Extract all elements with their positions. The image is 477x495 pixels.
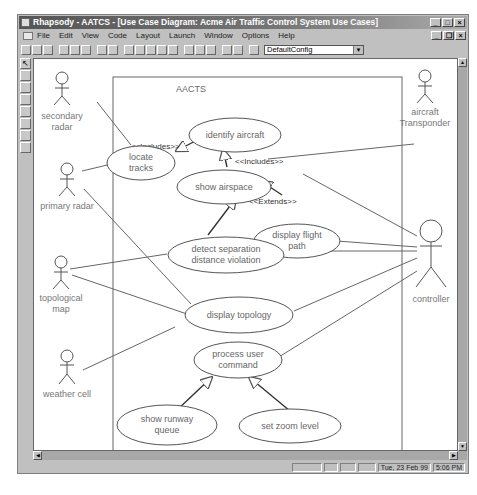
zoom-undo-icon[interactable] — [168, 45, 178, 55]
maximize-button[interactable]: □ — [442, 18, 453, 27]
status-panel — [292, 463, 322, 472]
use-case-label: display topology — [207, 310, 272, 320]
app-icon[interactable] — [21, 18, 30, 27]
association-tool-icon[interactable] — [20, 118, 31, 129]
use-case-label: display flight — [272, 230, 322, 240]
status-panel — [358, 463, 376, 472]
actor-label: secondary — [41, 111, 83, 121]
use-case-label: command — [218, 360, 258, 370]
status-panel — [324, 463, 338, 472]
horizontal-scrollbar[interactable]: ◀ ▶ — [33, 451, 458, 460]
status-date: Tue, 23 Feb 99 — [378, 463, 431, 472]
menu-file[interactable]: File — [37, 30, 50, 42]
disabled-tool-icon[interactable] — [222, 45, 232, 55]
disabled-tool-icon[interactable] — [233, 45, 243, 55]
close-button[interactable]: × — [454, 18, 465, 27]
rhapsody-window: Rhapsody - AATCS - [Use Case Diagram: Ac… — [17, 14, 469, 474]
drawing-palette: ↖ — [20, 58, 32, 453]
system-boundary-label: AACTS — [176, 84, 206, 94]
use-case-tool-icon[interactable] — [20, 82, 31, 93]
generate-code-icon[interactable] — [249, 45, 259, 55]
doc-minimize-button[interactable]: _ — [431, 31, 442, 40]
select-arrow-icon[interactable]: ↖ — [20, 58, 31, 69]
zoom-out-icon[interactable] — [135, 45, 145, 55]
dependency-tool-icon[interactable] — [20, 142, 31, 153]
use-case-label: set zoom level — [261, 421, 319, 431]
disabled-tool-icon[interactable] — [206, 45, 216, 55]
scroll-left-icon[interactable]: ◀ — [33, 451, 42, 460]
status-panel — [340, 463, 356, 472]
menu-edit[interactable]: Edit — [59, 30, 73, 42]
use-case-label: identify aircraft — [206, 130, 265, 140]
boundary-tool-icon[interactable] — [20, 106, 31, 117]
use-case-label: path — [288, 241, 306, 251]
menu-help[interactable]: Help — [278, 30, 294, 42]
actor-weather-cell[interactable] — [59, 350, 75, 384]
document-icon[interactable] — [23, 32, 33, 40]
minimize-button[interactable]: _ — [430, 18, 441, 27]
find-icon[interactable] — [195, 45, 205, 55]
title-bar[interactable]: Rhapsody - AATCS - [Use Case Diagram: Ac… — [19, 16, 467, 29]
open-icon[interactable] — [32, 45, 42, 55]
use-case-label: detect separation — [191, 244, 260, 254]
menu-options[interactable]: Options — [242, 30, 270, 42]
scroll-down-icon[interactable]: ▼ — [458, 442, 467, 451]
save-icon[interactable] — [43, 45, 53, 55]
paste-icon[interactable] — [81, 45, 91, 55]
actor-label: map — [52, 304, 70, 314]
actor-label: controller — [412, 294, 449, 304]
generalization-tool-icon[interactable] — [20, 130, 31, 141]
menu-launch[interactable]: Launch — [169, 30, 195, 42]
vertical-scrollbar[interactable]: ▲ ▼ — [458, 58, 467, 460]
doc-restore-button[interactable]: ❐ — [443, 31, 454, 40]
menu-bar: File Edit View Code Layout Launch Window… — [19, 30, 467, 42]
configuration-select[interactable]: DefaultConfig ▼ — [264, 45, 364, 55]
doc-close-button[interactable]: × — [455, 31, 466, 40]
menu-code[interactable]: Code — [108, 30, 127, 42]
includes-label-right: <<Includes>> — [235, 157, 284, 166]
chevron-down-icon[interactable]: ▼ — [353, 46, 363, 54]
actor-label: Transponder — [400, 118, 451, 128]
use-case-label: queue — [154, 425, 179, 435]
actor-primary-radar[interactable] — [59, 163, 75, 196]
window-title: Rhapsody - AATCS - [Use Case Diagram: Ac… — [33, 17, 378, 27]
cut-icon[interactable] — [59, 45, 69, 55]
actor-aircraft-transponder[interactable] — [417, 70, 433, 103]
zoom-fit-icon[interactable] — [146, 45, 156, 55]
help-icon[interactable] — [108, 45, 118, 55]
use-case-label: distance violation — [191, 255, 260, 265]
use-case-label: show runway — [141, 414, 194, 424]
status-time: 5:06 PM — [433, 463, 465, 472]
actor-label: topological — [39, 293, 82, 303]
scroll-up-icon[interactable]: ▲ — [458, 58, 467, 67]
menu-view[interactable]: View — [82, 30, 99, 42]
use-case-label: process user — [212, 349, 264, 359]
use-case-label: tracks — [129, 163, 154, 173]
menu-window[interactable]: Window — [204, 30, 232, 42]
zoom-in-icon[interactable] — [124, 45, 134, 55]
actor-controller[interactable] — [416, 220, 446, 287]
new-icon[interactable] — [21, 45, 31, 55]
package-tool-icon[interactable] — [20, 94, 31, 105]
copy-icon[interactable] — [70, 45, 80, 55]
scroll-right-icon[interactable]: ▶ — [449, 451, 458, 460]
diagram-canvas[interactable]: AACTS — [33, 58, 458, 451]
actor-label: aircraft — [411, 107, 439, 117]
configuration-value: DefaultConfig — [267, 45, 312, 54]
toolbar: DefaultConfig ▼ — [19, 43, 467, 56]
actor-topological-map[interactable] — [53, 256, 69, 289]
browser-icon[interactable] — [184, 45, 194, 55]
status-bar: Tue, 23 Feb 99 5:06 PM — [19, 461, 467, 473]
actor-label: radar — [51, 122, 72, 132]
actor-label: primary radar — [40, 201, 94, 211]
actor-secondary-radar[interactable] — [54, 72, 70, 105]
use-case-label: locate — [129, 152, 153, 162]
zoom-grid-icon[interactable] — [157, 45, 167, 55]
actor-tool-icon[interactable] — [20, 70, 31, 81]
actor-label: weather cell — [42, 389, 91, 399]
print-icon[interactable] — [97, 45, 107, 55]
menu-layout[interactable]: Layout — [136, 30, 160, 42]
use-case-label: show airspace — [195, 182, 253, 192]
